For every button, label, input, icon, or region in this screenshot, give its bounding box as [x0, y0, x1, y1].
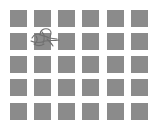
tile-grid — [10, 10, 150, 122]
grid-tile-r3-c0[interactable] — [10, 79, 27, 96]
grid-tile-r2-c0[interactable] — [10, 56, 27, 73]
grid-tile-r2-c2[interactable] — [58, 56, 75, 73]
grid-tile-r3-c3[interactable] — [82, 79, 99, 96]
grid-tile-r2-c1[interactable] — [34, 56, 51, 73]
grid-tile-r0-c5[interactable] — [131, 10, 148, 27]
grid-tile-r1-c1[interactable] — [34, 33, 51, 50]
grid-tile-r3-c4[interactable] — [107, 79, 124, 96]
grid-tile-r1-c4[interactable] — [107, 33, 124, 50]
grid-tile-r0-c4[interactable] — [107, 10, 124, 27]
grid-tile-r2-c5[interactable] — [131, 56, 148, 73]
grid-tile-r2-c4[interactable] — [107, 56, 124, 73]
grid-tile-r3-c5[interactable] — [131, 79, 148, 96]
grid-tile-r1-c0[interactable] — [10, 33, 27, 50]
grid-tile-r4-c5[interactable] — [131, 103, 148, 120]
grid-tile-r1-c3[interactable] — [82, 33, 99, 50]
grid-tile-r3-c1[interactable] — [34, 79, 51, 96]
grid-tile-r1-c5[interactable] — [131, 33, 148, 50]
grid-tile-r0-c0[interactable] — [10, 10, 27, 27]
grid-tile-r1-c2[interactable] — [58, 33, 75, 50]
grid-tile-r2-c3[interactable] — [82, 56, 99, 73]
grid-tile-r0-c3[interactable] — [82, 10, 99, 27]
grid-tile-r4-c2[interactable] — [58, 103, 75, 120]
grid-tile-r4-c4[interactable] — [107, 103, 124, 120]
grid-tile-r4-c0[interactable] — [10, 103, 27, 120]
grid-tile-r4-c3[interactable] — [82, 103, 99, 120]
grid-tile-r3-c2[interactable] — [58, 79, 75, 96]
grid-tile-r0-c2[interactable] — [58, 10, 75, 27]
grid-tile-r0-c1[interactable] — [34, 10, 51, 27]
grid-tile-r4-c1[interactable] — [34, 103, 51, 120]
